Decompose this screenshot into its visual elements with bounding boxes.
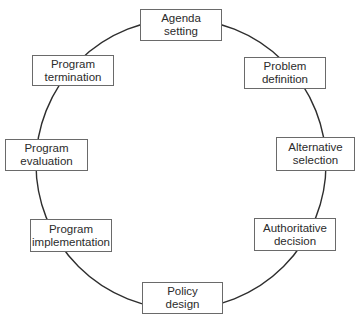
node-label: design (166, 298, 200, 311)
node-program-implementation: Program implementation (30, 219, 112, 252)
node-label: decision (274, 235, 316, 248)
node-label: Program (49, 223, 93, 236)
node-alternative-selection: Alternative selection (276, 137, 355, 171)
node-label: Agenda (161, 12, 201, 25)
node-label: Policy (167, 285, 198, 298)
node-authoritative-decision: Authoritative decision (254, 218, 336, 251)
node-label: Program (24, 142, 68, 155)
node-label: implementation (32, 236, 110, 249)
node-label: setting (164, 25, 198, 38)
node-label: Authoritative (263, 222, 327, 235)
node-label: termination (45, 71, 102, 84)
node-program-evaluation: Program evaluation (5, 139, 88, 171)
node-label: Alternative (288, 141, 342, 154)
node-policy-design: Policy design (142, 282, 223, 314)
node-label: Problem (264, 60, 307, 73)
node-label: definition (262, 73, 308, 86)
node-label: selection (293, 154, 338, 167)
node-problem-definition: Problem definition (244, 57, 326, 89)
node-program-termination: Program termination (32, 55, 114, 86)
node-label: evaluation (20, 155, 72, 168)
node-label: Program (51, 58, 95, 71)
node-agenda-setting: Agenda setting (140, 9, 222, 41)
